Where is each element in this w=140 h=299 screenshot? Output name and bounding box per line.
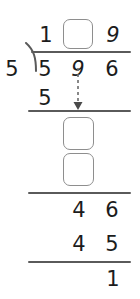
subtraction-rule-1 (28, 110, 131, 112)
quotient-digit-units: 9 (101, 25, 125, 46)
step4-digit-ones: 5 (100, 234, 124, 255)
division-vinculum-rule (31, 51, 131, 53)
dividend-digit-hundreds: 5 (33, 59, 57, 80)
step4-digit-tens: 4 (67, 234, 91, 255)
dividend-digit-units: 6 (100, 59, 124, 80)
step1-product-digit: 5 (33, 88, 57, 109)
divisor-digit: 5 (0, 59, 24, 80)
subtraction-rule-3 (28, 261, 131, 263)
step3-digit-ones: 6 (100, 200, 124, 221)
subtraction-rule-2 (28, 192, 131, 194)
remainder-digit: 1 (101, 269, 125, 290)
answer-box-bring-down-upper[interactable] (63, 117, 94, 150)
answer-box-quotient-ones[interactable] (63, 19, 93, 49)
answer-box-bring-down-lower[interactable] (63, 153, 94, 186)
long-division-worksheet: 1 9 5 5 9 6 5 4 6 4 5 1 (0, 0, 140, 299)
step3-digit-tens: 4 (67, 200, 91, 221)
bring-down-arrow-icon (68, 66, 88, 114)
